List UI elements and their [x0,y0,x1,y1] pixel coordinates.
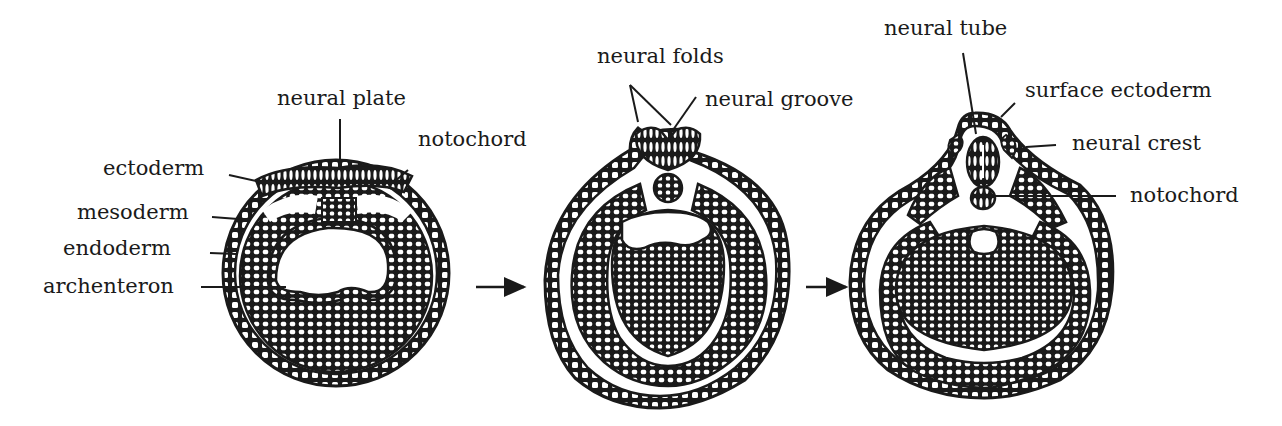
label-notochord: notochord [418,129,527,150]
neurulation-diagram: neural plate notochord ectoderm mesoderm… [0,0,1282,426]
label-notochord-stage-3: notochord [1130,185,1239,206]
label-neural-plate: neural plate [277,88,406,109]
label-ectoderm: ectoderm [103,158,204,179]
label-neural-folds: neural folds [597,46,724,67]
label-neural-groove: neural groove [705,89,854,110]
label-endoderm: endoderm [63,238,171,259]
label-surface-ectoderm: surface ectoderm [1025,80,1212,101]
label-neural-tube: neural tube [884,18,1007,39]
stage-2-embryo [545,128,789,408]
label-archenteron: archenteron [43,276,174,297]
stage-2-leader-lines [630,85,696,130]
label-mesoderm: mesoderm [77,202,189,223]
stage-1-embryo [223,160,449,386]
label-neural-crest: neural crest [1072,133,1201,154]
stage-3-embryo [850,113,1113,398]
